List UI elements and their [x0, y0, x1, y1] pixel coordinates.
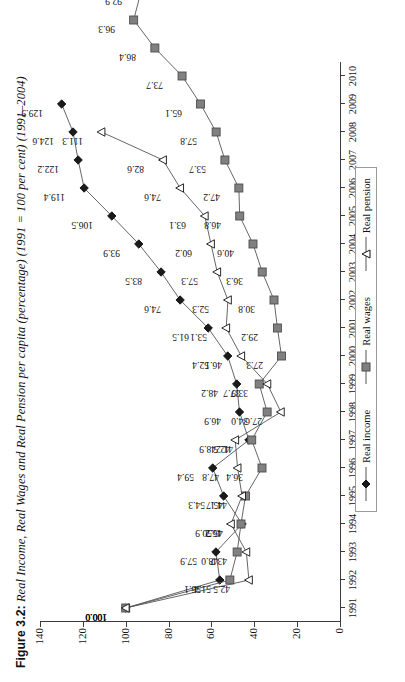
- data-point-value-label: 50.9: [195, 528, 212, 539]
- data-point-value-label: 119.4: [44, 192, 65, 203]
- x-tick-mark: [340, 327, 345, 328]
- data-point-marker: [263, 408, 271, 416]
- data-point-marker: [219, 492, 227, 500]
- x-tick-mark: [340, 271, 345, 272]
- data-point-marker: [270, 296, 278, 304]
- figure-label: Figure 3.2:: [14, 605, 28, 668]
- data-point-marker: [212, 128, 220, 136]
- data-point-marker: [233, 380, 241, 388]
- data-point-marker: [69, 128, 77, 136]
- data-point-value-label: 41.2: [216, 444, 233, 455]
- filled-diamond-icon: [360, 467, 372, 501]
- y-tick-mark: [126, 622, 127, 627]
- data-point-value-label: 46.9: [204, 416, 221, 427]
- x-tick-mark: [340, 467, 345, 468]
- chart-legend: Real income Real wages Real pension: [355, 167, 377, 512]
- data-point-marker: [57, 100, 65, 108]
- y-tick-mark: [83, 622, 84, 627]
- legend-item-real-pension: Real pension: [360, 178, 372, 271]
- x-tick-label: 2010: [347, 59, 358, 93]
- x-tick-mark: [340, 103, 345, 104]
- x-tick-mark: [340, 495, 345, 496]
- data-point-value-label: 43.7: [211, 556, 228, 567]
- data-point-marker: [157, 268, 165, 276]
- data-point-value-label: 82.6: [127, 164, 144, 175]
- data-point-value-label: 40.6: [217, 248, 234, 259]
- x-tick-mark: [340, 551, 345, 552]
- figure-title: Real Income, Real Wages and Real Pension…: [14, 76, 28, 602]
- data-point-value-label: 42.5: [213, 584, 230, 595]
- data-point-value-label: 45.7: [206, 500, 223, 511]
- data-point-value-label: 61.5: [172, 332, 189, 343]
- y-tick-mark: [254, 622, 255, 627]
- data-point-marker: [74, 156, 82, 164]
- data-point-value-label: 93.9: [103, 248, 120, 259]
- data-point-marker: [273, 324, 281, 332]
- data-point-marker: [235, 184, 243, 192]
- data-point-value-label: 65.1: [165, 108, 182, 119]
- x-axis-line: [340, 62, 341, 622]
- data-point-value-label: 92.9: [105, 0, 122, 7]
- y-tick-mark: [340, 622, 341, 627]
- x-tick-mark: [340, 579, 345, 580]
- data-point-value-label: 53.7: [189, 164, 206, 175]
- data-point-marker: [209, 464, 217, 472]
- data-point-marker: [249, 240, 257, 248]
- data-point-value-label: 74.6: [144, 304, 161, 315]
- y-tick-mark: [211, 622, 212, 627]
- data-point-value-label: 96.3: [98, 24, 115, 35]
- data-point-marker: [197, 100, 205, 108]
- data-point-value-label: 111.3: [62, 136, 83, 147]
- x-tick-mark: [340, 187, 345, 188]
- data-point-value-label: 46.1: [205, 360, 222, 371]
- y-tick-mark: [40, 622, 41, 627]
- data-point-marker: [236, 212, 244, 220]
- data-point-value-label: 33.9: [232, 388, 249, 399]
- data-point-marker: [159, 156, 167, 164]
- data-point-value-label: 54.3: [188, 500, 205, 511]
- data-point-marker: [235, 408, 243, 416]
- y-tick-label: 0: [333, 628, 345, 656]
- data-point-marker: [278, 352, 286, 360]
- data-point-value-label: 52.3: [192, 304, 209, 315]
- figure-container: Figure 3.2: Real Income, Real Wages and …: [0, 0, 405, 682]
- y-tick-label: 80: [162, 628, 174, 656]
- data-point-marker: [130, 16, 138, 24]
- data-point-marker: [176, 184, 184, 192]
- data-point-marker: [222, 324, 230, 332]
- y-tick-label: 100: [119, 628, 131, 656]
- data-point-value-label: 47.8: [202, 472, 219, 483]
- open-triangle-icon: [360, 237, 372, 271]
- data-point-value-label: 124.6: [32, 136, 54, 147]
- data-point-marker: [248, 436, 256, 444]
- data-point-marker: [226, 576, 234, 584]
- y-tick-mark: [297, 622, 298, 627]
- data-point-value-label: 48.9: [199, 444, 216, 455]
- data-point-value-label: 122.2: [38, 164, 60, 175]
- data-point-value-label: 60.2: [175, 248, 192, 259]
- data-point-marker: [178, 72, 186, 80]
- data-point-value-label: 51.4: [194, 584, 211, 595]
- filled-square-icon: [360, 350, 372, 384]
- data-point-value-label: 74.6: [144, 192, 161, 203]
- data-point-value-label: 46.8: [204, 220, 221, 231]
- data-point-marker: [221, 156, 229, 164]
- data-point-value-label: 100.0: [85, 612, 107, 623]
- x-tick-mark: [340, 75, 345, 76]
- data-point-value-label: 57.3: [181, 276, 198, 287]
- data-point-marker: [242, 548, 250, 556]
- x-tick-mark: [340, 383, 345, 384]
- data-point-value-label: 86.4: [119, 52, 136, 63]
- data-point-value-label: 27.6: [245, 416, 262, 427]
- legend-label-real-wages: Real wages: [361, 297, 372, 346]
- data-point-marker: [97, 128, 105, 136]
- x-tick-mark: [340, 607, 345, 608]
- data-point-value-label: 106.5: [71, 220, 93, 231]
- data-point-marker: [231, 436, 239, 444]
- data-point-value-label: 27.3: [246, 360, 263, 371]
- data-point-value-label: 83.5: [125, 276, 142, 287]
- y-tick-label: 40: [247, 628, 259, 656]
- data-point-value-label: 30.8: [238, 304, 255, 315]
- y-tick-label: 120: [76, 628, 88, 656]
- data-point-value-label: 29.2: [242, 332, 259, 343]
